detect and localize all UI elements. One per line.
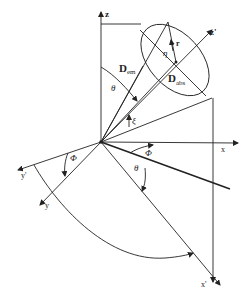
label-z: z (105, 9, 109, 19)
ellipse-diameter (140, 30, 206, 96)
label-y-prime: y' (21, 171, 27, 180)
cone-diagram: z z' x x' y' y Dem Dabs r η θ ξ Φ θ Φ (0, 0, 242, 298)
label-y: y (45, 201, 49, 210)
cone-edge-bottom (101, 98, 212, 142)
label-z-prime: z' (210, 27, 217, 37)
label-x: x (221, 145, 225, 154)
theta-arc-bottom (142, 168, 145, 191)
y-axis (40, 142, 101, 205)
label-phi-left: Φ (70, 153, 77, 163)
origin-point (99, 140, 103, 144)
y-prime-axis (18, 142, 101, 170)
label-d-em: Dem (119, 62, 136, 76)
phi-arc-left (65, 153, 68, 176)
label-theta-top: θ (111, 83, 116, 93)
label-eta: η (163, 48, 168, 58)
theta-arc (34, 165, 193, 258)
label-r: r (176, 39, 180, 48)
label-x-prime: x' (201, 280, 207, 289)
d-abs-point (175, 61, 178, 64)
label-xi: ξ (132, 116, 136, 126)
x-axis (101, 142, 238, 143)
label-phi-right: Φ (145, 148, 152, 158)
label-d-abs: Dabs (168, 72, 186, 87)
label-theta-bottom: θ (134, 163, 139, 173)
cone-base-ellipse (128, 11, 223, 108)
